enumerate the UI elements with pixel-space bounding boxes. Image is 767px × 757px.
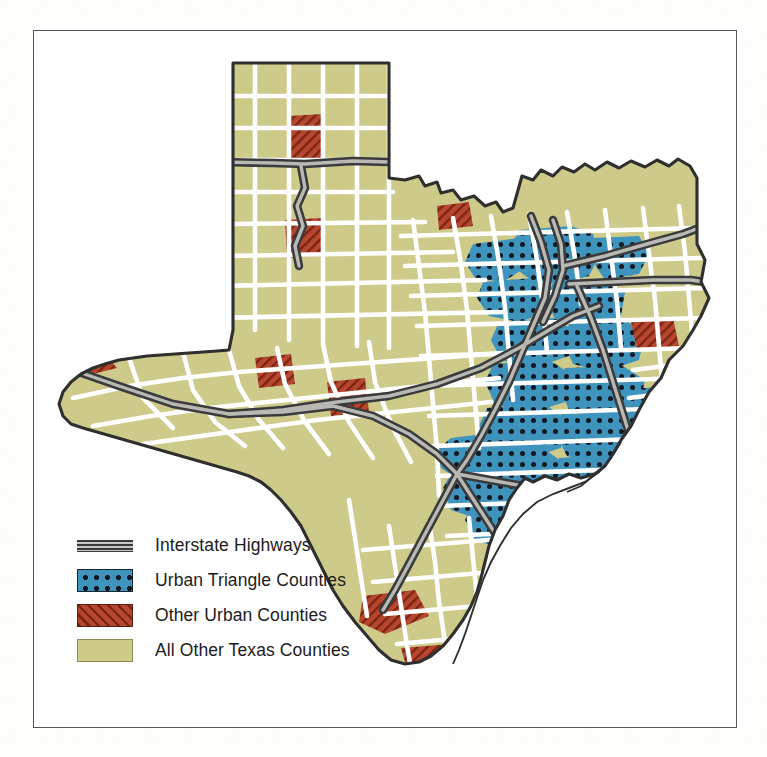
legend-item-all-other-texas-counties: All Other Texas Counties [77, 633, 377, 668]
interstate-highway-swatch-icon [77, 540, 133, 552]
all-other-counties-swatch-icon [77, 639, 133, 662]
legend-label-interstate-highways: Interstate Highways [155, 537, 311, 555]
other-urban-swatch-icon [77, 604, 133, 627]
map-legend: Interstate Highways Urban Triangle Count… [77, 528, 377, 668]
legend-label-all-other-texas-counties: All Other Texas Counties [155, 642, 350, 660]
legend-label-urban-triangle-counties: Urban Triangle Counties [155, 572, 346, 590]
legend-item-interstate-highways: Interstate Highways [77, 528, 377, 563]
legend-item-urban-triangle-counties: Urban Triangle Counties [77, 563, 377, 598]
urban-triangle-swatch-icon [77, 569, 133, 592]
legend-label-other-urban-counties: Other Urban Counties [155, 607, 327, 625]
figure-canvas: Interstate Highways Urban Triangle Count… [0, 0, 767, 757]
legend-item-other-urban-counties: Other Urban Counties [77, 598, 377, 633]
